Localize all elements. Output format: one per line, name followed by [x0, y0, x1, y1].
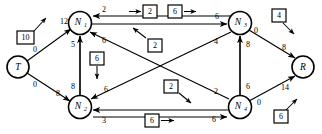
annotation-box-2-mid-upper-value: 2 — [153, 41, 157, 50]
node-N3-subscript: 3 — [243, 22, 247, 28]
annotation-box-6-left-value: 6 — [95, 54, 99, 63]
diagram-canvas: 12 0 8 0 5 8 2 6 6 2 6 4 — [0, 0, 322, 134]
node-N3[interactable]: N 3 — [229, 12, 252, 35]
edge-label-T-N2-head: 8 — [56, 89, 60, 98]
annotation-box-10-value: 10 — [22, 33, 30, 42]
network-flow-diagram: 12 0 8 0 5 8 2 6 6 2 6 4 — [0, 0, 322, 134]
annotation-box-6-right-arrow — [286, 99, 297, 110]
annotation-box-2-mid-upper[interactable]: 2 — [133, 28, 162, 52]
node-group: T N 1 N 2 N 3 N 4 — [7, 12, 314, 119]
edge-label-T-N1-head: 12 — [60, 17, 68, 26]
node-N2-subscript: 2 — [84, 106, 87, 112]
edge-label-N3-R-tail: 0 — [254, 26, 258, 35]
edge-label-T-N1-tail: 0 — [33, 45, 37, 54]
node-T[interactable]: T — [7, 56, 29, 78]
node-N1-subscript: 1 — [84, 22, 87, 28]
node-N4[interactable]: N 4 — [229, 96, 252, 119]
annotation-box-6-right-value: 6 — [279, 112, 283, 121]
edge-label-N3N4-bottom: 6 — [246, 82, 250, 91]
annotation-box-6-bottom[interactable]: 6 — [145, 114, 174, 127]
edge-label-N2-N4-head: 6 — [212, 115, 216, 124]
annotation-box-6-left[interactable]: 6 — [90, 52, 104, 79]
annotation-box-4-arrow — [283, 23, 294, 34]
node-T-label: T — [15, 62, 21, 72]
edge-label-N4-R-head: 14 — [281, 83, 289, 92]
node-N4-label: N — [234, 101, 242, 111]
edge-label-N3-N1: 2 — [102, 5, 106, 14]
annotation-box-2-mid-lower-value: 2 — [169, 82, 173, 91]
edge-label-N4-R-tail: 0 — [257, 98, 261, 107]
edge-label-N4-N1-tail: 2 — [214, 87, 218, 96]
node-R-label: R — [299, 62, 306, 72]
edge-label-N1N2-top: 5 — [71, 40, 75, 49]
annotation-box-2-top-value: 2 — [148, 7, 152, 16]
annotation-box-group: 10 2 6 4 — [17, 5, 297, 127]
node-N1-label: N — [74, 17, 82, 27]
edge-label-N4-N1-head: 6 — [102, 36, 106, 45]
annotation-box-10[interactable]: 10 — [17, 18, 46, 44]
annotation-box-6-bottom-value: 6 — [150, 116, 154, 125]
edge-label-N2-N4-tail: 3 — [102, 116, 106, 125]
edge-label-N1-N3: 6 — [215, 12, 219, 21]
node-R[interactable]: R — [292, 56, 314, 78]
edge-label-N3-N2-tail: 4 — [214, 37, 218, 46]
annotation-box-6-top-value: 6 — [173, 7, 177, 16]
edge-label-N3N4-top: 8 — [246, 40, 250, 49]
annotation-box-2-mid-upper-arrow — [133, 28, 146, 38]
node-N3-label: N — [234, 17, 242, 27]
edge-label-N1N2-bottom: 8 — [71, 82, 75, 91]
annotation-box-10-arrow — [34, 18, 46, 31]
annotation-box-4-value: 4 — [277, 11, 281, 20]
annotation-box-2-mid-lower[interactable]: 2 — [164, 80, 191, 103]
node-N1[interactable]: N 1 — [69, 12, 92, 35]
node-N2-label: N — [74, 101, 82, 111]
edge-label-N3-N2-head: 6 — [104, 85, 108, 94]
node-N2[interactable]: N 2 — [69, 96, 92, 119]
annotation-box-6-right[interactable]: 6 — [274, 99, 297, 123]
edge-label-T-N2-tail: 0 — [33, 80, 37, 89]
node-N4-subscript: 4 — [244, 106, 247, 112]
edge-group: 12 0 8 0 5 8 2 6 6 2 6 4 — [27, 5, 295, 125]
edge-label-N3-R-head: 8 — [282, 43, 286, 52]
annotation-box-2-mid-lower-arrow — [179, 93, 191, 103]
annotation-box-4[interactable]: 4 — [272, 9, 294, 34]
